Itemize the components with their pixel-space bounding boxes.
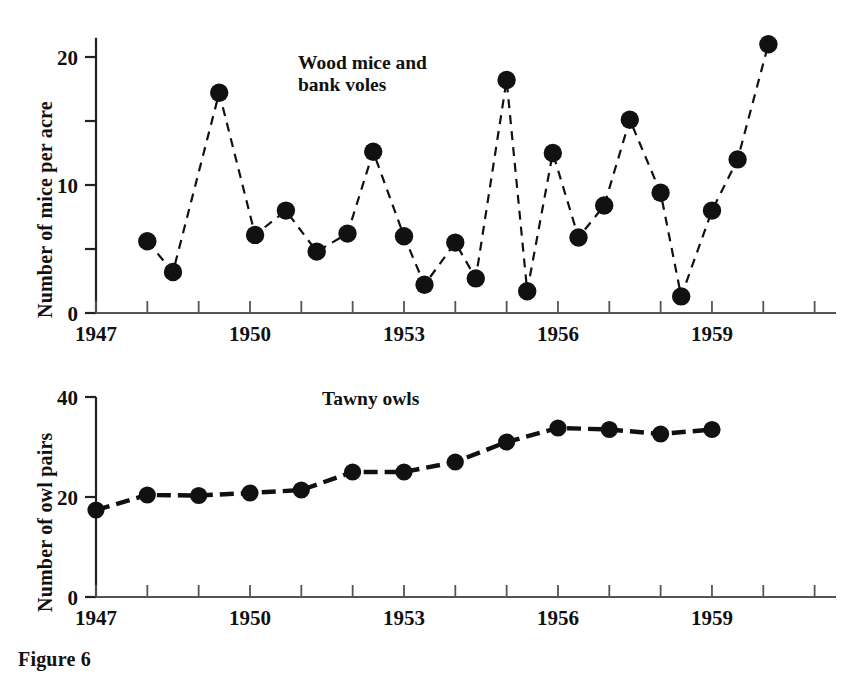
data-point-marker[interactable]	[549, 419, 566, 436]
data-point-marker[interactable]	[190, 487, 207, 504]
plot-area-tawny-owls: 0204019471950195319561959	[0, 350, 864, 640]
data-point-marker[interactable]	[164, 263, 182, 281]
y-tick-label: 20	[57, 46, 78, 70]
data-point-marker[interactable]	[415, 276, 433, 294]
data-point-marker[interactable]	[703, 201, 721, 219]
data-point-marker[interactable]	[246, 226, 264, 244]
data-point-marker[interactable]	[651, 184, 669, 202]
x-tick-label: 1959	[691, 322, 733, 346]
data-point-marker[interactable]	[447, 453, 464, 470]
plot-area-wood-mice: 0102019471950195319561959	[0, 0, 864, 350]
x-tick-label: 1947	[75, 322, 117, 346]
x-tick-label: 1956	[537, 322, 579, 346]
x-tick-label: 1950	[229, 606, 271, 630]
data-point-marker[interactable]	[241, 484, 258, 501]
data-point-marker[interactable]	[759, 35, 777, 53]
tick-labels-owls: 0204019471950195319561959	[57, 386, 733, 630]
x-tick-label: 1947	[75, 606, 117, 630]
data-point-marker[interactable]	[364, 143, 382, 161]
data-point-marker[interactable]	[467, 269, 485, 287]
figure-caption: Figure 6	[18, 648, 91, 671]
chart-panel-wood-mice: Number of mice per acre Wood mice and ba…	[0, 0, 864, 350]
data-point-marker[interactable]	[518, 282, 536, 300]
data-point-marker[interactable]	[728, 150, 746, 168]
data-line	[147, 44, 768, 296]
data-point-marker[interactable]	[293, 481, 310, 498]
data-point-marker[interactable]	[446, 233, 464, 251]
data-point-marker[interactable]	[395, 227, 413, 245]
data-point-marker[interactable]	[344, 463, 361, 480]
tick-labels-mice: 0102019471950195319561959	[57, 46, 733, 346]
x-tick-label: 1956	[537, 606, 579, 630]
data-point-marker[interactable]	[395, 463, 412, 480]
data-point-marker[interactable]	[595, 196, 613, 214]
x-tick-label: 1950	[229, 322, 271, 346]
data-point-marker[interactable]	[139, 486, 156, 503]
data-point-marker[interactable]	[308, 242, 326, 260]
data-point-marker[interactable]	[621, 111, 639, 129]
data-point-marker[interactable]	[497, 71, 515, 89]
x-tick-label: 1953	[383, 322, 425, 346]
data-point-marker[interactable]	[569, 228, 587, 246]
data-point-marker[interactable]	[672, 287, 690, 305]
data-point-marker[interactable]	[138, 232, 156, 250]
figure-6: Number of mice per acre Wood mice and ba…	[0, 0, 864, 692]
data-point-marker[interactable]	[498, 433, 515, 450]
data-point-marker[interactable]	[87, 501, 104, 518]
y-tick-label: 10	[57, 174, 78, 198]
x-tick-label: 1953	[383, 606, 425, 630]
data-point-marker[interactable]	[601, 421, 618, 438]
x-tick-label: 1959	[691, 606, 733, 630]
data-point-marker[interactable]	[703, 421, 720, 438]
data-point-marker[interactable]	[277, 201, 295, 219]
y-tick-label: 20	[57, 486, 78, 510]
data-point-marker[interactable]	[652, 425, 669, 442]
data-point-marker[interactable]	[338, 224, 356, 242]
chart-panel-tawny-owls: Number of owl pairs Tawny owls 020401947…	[0, 350, 864, 640]
axes-mice	[85, 38, 836, 313]
data-point-marker[interactable]	[544, 144, 562, 162]
data-series-wood-mice	[138, 35, 778, 306]
y-tick-label: 40	[57, 386, 78, 410]
data-series-tawny-owls	[87, 419, 720, 518]
data-point-marker[interactable]	[210, 84, 228, 102]
